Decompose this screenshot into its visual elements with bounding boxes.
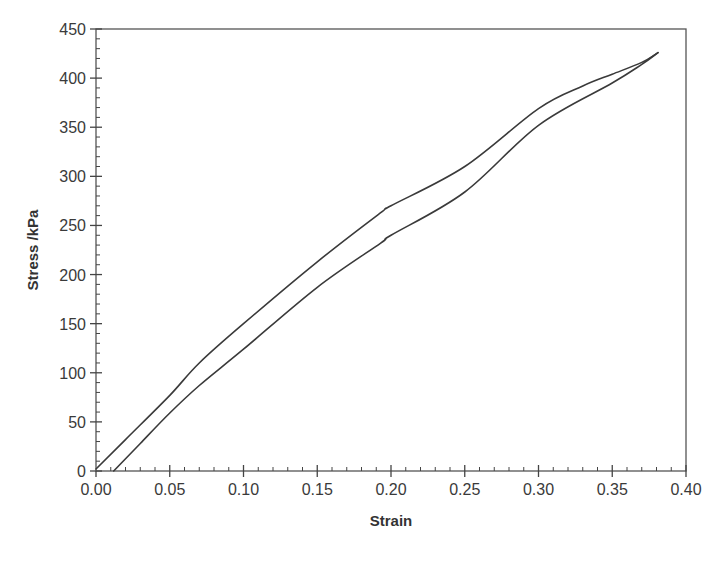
- x-tick-label: 0.15: [302, 481, 333, 498]
- x-tick-label: 0.05: [154, 481, 185, 498]
- x-tick-label: 0.35: [597, 481, 628, 498]
- y-tick-label: 350: [59, 119, 86, 136]
- y-tick-label: 250: [59, 217, 86, 234]
- x-axis-title: Strain: [370, 512, 413, 529]
- y-axis-tick-labels: 050100150200250300350400450: [59, 21, 86, 480]
- x-tick-label: 0.40: [670, 481, 701, 498]
- y-tick-label: 400: [59, 70, 86, 87]
- y-tick-label: 150: [59, 316, 86, 333]
- y-tick-label: 300: [59, 168, 86, 185]
- y-tick-label: 450: [59, 21, 86, 38]
- y-axis-title: Stress /kPa: [24, 209, 41, 291]
- x-tick-label: 0.10: [228, 481, 259, 498]
- x-tick-label: 0.20: [375, 481, 406, 498]
- stress-strain-chart: 0.000.050.100.150.200.250.300.350.40 050…: [0, 0, 723, 561]
- y-tick-label: 200: [59, 267, 86, 284]
- chart-canvas: 0.000.050.100.150.200.250.300.350.40 050…: [0, 0, 723, 561]
- x-tick-label: 0.00: [80, 481, 111, 498]
- y-tick-label: 50: [68, 414, 86, 431]
- x-tick-label: 0.30: [523, 481, 554, 498]
- plot-area-frame: [96, 29, 686, 471]
- x-tick-label: 0.25: [449, 481, 480, 498]
- x-axis-tick-labels: 0.000.050.100.150.200.250.300.350.40: [80, 481, 701, 498]
- y-tick-label: 0: [77, 463, 86, 480]
- y-tick-label: 100: [59, 365, 86, 382]
